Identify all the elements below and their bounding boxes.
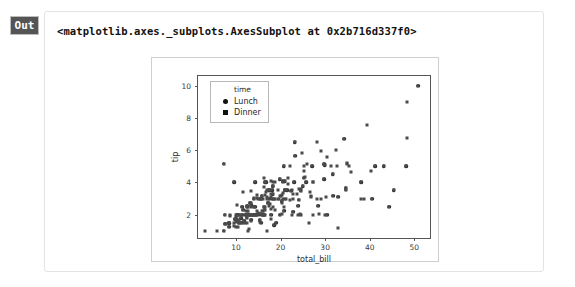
scatter-point — [277, 197, 280, 200]
scatter-point — [289, 165, 292, 168]
scatter-point — [311, 213, 314, 216]
scatter-point — [244, 210, 247, 213]
scatter-point — [325, 155, 328, 158]
scatter-point — [305, 162, 308, 165]
scatter-point — [267, 201, 270, 204]
scatter-point — [331, 173, 334, 176]
scatter-point — [270, 213, 273, 216]
scatter-point — [323, 178, 326, 181]
scatter-point — [273, 208, 276, 211]
scatter-point — [271, 185, 274, 188]
scatter-point — [282, 209, 285, 212]
scatter-point — [281, 197, 284, 200]
scatter-point — [238, 222, 241, 225]
scatter-point — [224, 222, 227, 225]
y-tick — [195, 150, 198, 151]
scatter-point — [254, 213, 257, 216]
scatter-point — [291, 213, 294, 216]
scatter-point — [324, 213, 327, 216]
x-tick — [370, 238, 371, 241]
scatter-point — [274, 197, 277, 200]
x-axis-label: total_bill — [297, 255, 331, 264]
scatter-point — [283, 189, 286, 192]
scatter-point — [269, 208, 272, 211]
output-card: <matplotlib.axes._subplots.AxesSubplot a… — [44, 11, 544, 272]
x-tick — [414, 238, 415, 241]
axes-repr-text: <matplotlib.axes._subplots.AxesSubplot a… — [57, 25, 417, 37]
scatter-point — [308, 190, 311, 193]
scatter-point — [297, 213, 300, 216]
scatter-point — [310, 195, 313, 198]
y-tick-label: 2 — [186, 210, 191, 219]
scatter-point — [269, 217, 272, 220]
scatter-point — [277, 189, 280, 192]
legend-title: time — [234, 85, 261, 94]
scatter-point — [323, 163, 326, 166]
scatter-point — [366, 123, 369, 126]
scatter-point — [293, 141, 296, 144]
scatter-axes: time Lunch Dinner 1020304050 — [197, 75, 431, 239]
scatter-point — [344, 186, 347, 189]
scatter-point — [264, 181, 267, 184]
scatter-point — [280, 200, 283, 203]
y-tick — [195, 118, 198, 119]
scatter-point — [259, 213, 262, 216]
scatter-point — [260, 221, 263, 224]
scatter-point — [266, 229, 269, 232]
scatter-point — [248, 213, 251, 216]
scatter-point — [336, 227, 339, 230]
legend-marker-circle-icon — [217, 99, 234, 104]
scatter-point — [334, 149, 337, 152]
scatter-point — [360, 181, 363, 184]
scatter-point — [302, 176, 305, 179]
y-tick-label: 8 — [186, 113, 191, 122]
scatter-point — [245, 221, 248, 224]
scatter-point — [282, 165, 285, 168]
scatter-point — [392, 189, 395, 192]
x-tick — [281, 238, 282, 241]
scatter-point — [204, 229, 207, 232]
scatter-point — [294, 154, 297, 157]
scatter-point — [271, 193, 274, 196]
scatter-point — [242, 191, 245, 194]
scatter-point — [295, 192, 298, 195]
scatter-point — [271, 189, 274, 192]
scatter-point — [299, 189, 302, 192]
scatter-point — [405, 100, 408, 103]
scatter-point — [241, 213, 244, 216]
scatter-point — [252, 197, 255, 200]
scatter-point — [310, 165, 313, 168]
y-tick — [195, 215, 198, 216]
scatter-point — [247, 209, 250, 212]
x-tick — [236, 238, 237, 241]
scatter-point — [317, 204, 320, 207]
scatter-point — [301, 185, 304, 188]
scatter-point — [233, 217, 236, 220]
scatter-point — [273, 181, 276, 184]
scatter-point — [324, 196, 327, 199]
scatter-point — [249, 202, 252, 205]
scatter-point — [250, 220, 253, 223]
scatter-point — [263, 176, 266, 179]
scatter-point — [319, 197, 322, 200]
x-tick — [325, 238, 326, 241]
scatter-point — [347, 165, 350, 168]
scatter-point — [288, 199, 291, 202]
scatter-point — [303, 165, 306, 168]
scatter-point — [273, 223, 276, 226]
y-tick-label: 6 — [186, 146, 191, 155]
scatter-point — [337, 195, 340, 198]
scatter-point — [228, 214, 231, 217]
scatter-point — [329, 165, 332, 168]
scatter-point — [287, 176, 290, 179]
scatter-point — [222, 229, 225, 232]
scatter-point — [315, 141, 318, 144]
scatter-point — [297, 198, 300, 201]
scatter-point — [363, 197, 366, 200]
scatter-point — [416, 84, 419, 87]
scatter-point — [223, 213, 226, 216]
scatter-point — [263, 193, 266, 196]
y-tick-label: 4 — [186, 178, 191, 187]
scatter-point — [387, 205, 390, 208]
scatter-point — [405, 165, 408, 168]
